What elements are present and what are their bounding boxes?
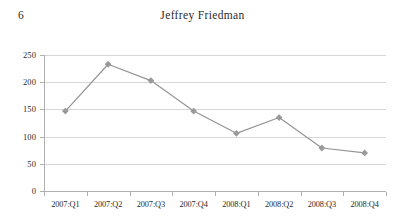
series-line [65,64,364,153]
chart-series-layer [0,40,405,217]
series-markers [62,61,368,156]
series-marker [233,130,240,137]
running-head-title: Jeffrey Friedman [0,6,405,24]
series-marker [361,150,368,157]
running-head: 6 Jeffrey Friedman [0,6,405,24]
line-chart-figure: 050100150200250 2007:Q12007:Q22007:Q3200… [0,40,405,217]
